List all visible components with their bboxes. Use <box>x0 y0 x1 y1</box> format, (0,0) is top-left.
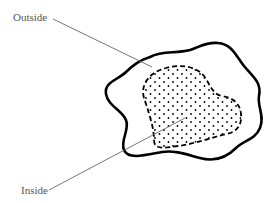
diagram-canvas: Outside Inside <box>0 0 278 203</box>
stipple-fill <box>138 62 246 154</box>
outside-label: Outside <box>13 11 47 23</box>
outside-leader-line <box>53 19 152 67</box>
inside-leader-line <box>49 118 185 190</box>
inside-label: Inside <box>21 184 48 196</box>
inside-outside-diagram: Outside Inside <box>0 0 278 203</box>
